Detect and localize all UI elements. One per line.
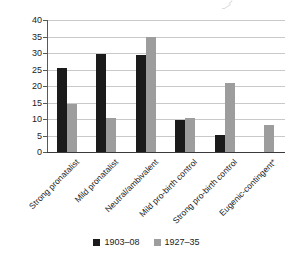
bar bbox=[67, 104, 77, 152]
y-axis-tick-mark bbox=[43, 37, 47, 38]
gridline bbox=[48, 70, 285, 71]
bar bbox=[136, 55, 146, 152]
y-axis-tick-label: 15 bbox=[22, 99, 42, 108]
gridline bbox=[48, 103, 285, 104]
gridline bbox=[48, 37, 285, 38]
bar-chart-figure: 0510152025303540 Strong pronatalistMild … bbox=[0, 0, 293, 261]
y-axis-tick-label: 40 bbox=[22, 16, 42, 25]
y-axis-tick-mark bbox=[43, 119, 47, 120]
gridline bbox=[48, 20, 285, 21]
legend-item[interactable]: 1903–08 bbox=[93, 238, 139, 247]
bar bbox=[146, 37, 156, 153]
plot-area bbox=[48, 20, 285, 152]
bar bbox=[225, 83, 235, 152]
series-2-swatch bbox=[154, 239, 161, 246]
bar bbox=[185, 118, 195, 152]
x-axis-category-labels: Strong pronatalistMild pronatalistNeutra… bbox=[0, 152, 293, 232]
bar bbox=[215, 135, 225, 152]
y-axis-tick-mark bbox=[43, 53, 47, 54]
y-axis-tick-mark bbox=[43, 103, 47, 104]
series-1-swatch bbox=[93, 239, 100, 246]
gridline bbox=[48, 86, 285, 87]
legend-item-label: 1927–35 bbox=[165, 238, 200, 247]
legend-item-label: 1903–08 bbox=[104, 238, 139, 247]
y-axis-tick-label: 25 bbox=[22, 66, 42, 75]
bar bbox=[106, 118, 116, 152]
y-axis-tick-label: 35 bbox=[22, 33, 42, 42]
gridline bbox=[48, 136, 285, 137]
y-axis-tick-mark bbox=[43, 20, 47, 21]
y-axis-tick-label: 20 bbox=[22, 82, 42, 91]
y-axis-tick-mark bbox=[43, 152, 47, 153]
bar bbox=[57, 68, 67, 152]
y-axis-tick-label: 10 bbox=[22, 115, 42, 124]
legend-item[interactable]: 1927–35 bbox=[154, 238, 200, 247]
y-axis-tick-label: 30 bbox=[22, 49, 42, 58]
y-axis-tick-mark bbox=[43, 86, 47, 87]
scan-artifact bbox=[222, 1, 236, 10]
chart-legend: 1903–081927–35 bbox=[0, 238, 293, 247]
y-axis-tick-label: 5 bbox=[22, 132, 42, 141]
bar bbox=[96, 54, 106, 152]
y-axis-tick-mark bbox=[43, 136, 47, 137]
gridline bbox=[48, 53, 285, 54]
bar bbox=[264, 125, 274, 152]
y-axis-tick-mark bbox=[43, 70, 47, 71]
gridline bbox=[48, 119, 285, 120]
bar bbox=[175, 120, 185, 152]
